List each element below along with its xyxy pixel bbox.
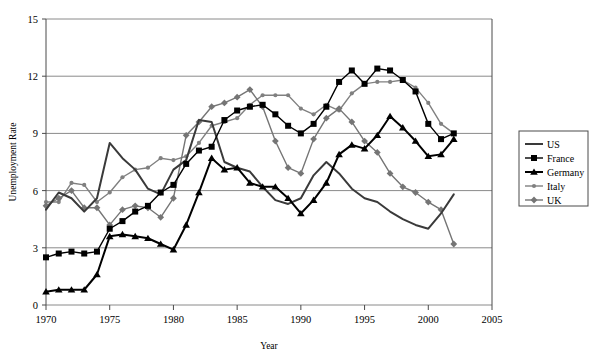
data-point-marker [197, 141, 201, 145]
data-point-marker [387, 67, 393, 73]
chart-legend: USFranceGermanyItalyUK [519, 131, 588, 206]
legend-label-italy: Italy [547, 181, 565, 192]
x-tick-label: 2005 [482, 314, 503, 325]
y-tick-label: 12 [28, 71, 39, 82]
data-point-marker [426, 101, 430, 105]
figure-background [0, 0, 592, 357]
chart-figure: 19701975198019851990199520002005 0369121… [0, 0, 592, 357]
data-point-marker [247, 104, 253, 110]
data-point-marker [261, 93, 265, 97]
data-point-marker [451, 130, 457, 136]
data-point-marker [413, 88, 419, 94]
data-point-marker [532, 184, 536, 188]
data-point-marker [145, 203, 151, 209]
data-point-marker [273, 93, 277, 97]
data-point-marker [221, 117, 227, 123]
data-point-marker [311, 121, 317, 127]
data-point-marker [43, 254, 49, 260]
legend-label-france: France [547, 153, 575, 164]
data-point-marker [362, 81, 368, 87]
data-point-marker [69, 181, 73, 185]
x-tick-label: 1985 [227, 314, 248, 325]
data-point-marker [350, 91, 354, 95]
data-point-marker [209, 144, 215, 150]
data-point-marker [196, 148, 202, 154]
data-point-marker [81, 251, 87, 257]
data-point-marker [68, 249, 74, 255]
unemployment-rate-line-chart: 19701975198019851990199520002005 0369121… [0, 0, 592, 357]
data-point-marker [439, 122, 443, 126]
data-point-marker [158, 190, 164, 196]
x-axis-title: Year [260, 341, 278, 351]
y-tick-label: 15 [28, 14, 39, 25]
data-point-marker [375, 80, 379, 84]
data-point-marker [438, 136, 444, 142]
y-tick-label: 3 [33, 243, 38, 254]
x-tick-label: 1970 [36, 314, 57, 325]
x-tick-label: 2000 [418, 314, 439, 325]
data-point-marker [159, 156, 163, 160]
data-point-marker [260, 102, 266, 108]
data-point-marker [119, 218, 125, 224]
data-point-marker [234, 108, 240, 114]
x-tick-label: 1995 [354, 314, 375, 325]
data-point-marker [183, 161, 189, 167]
x-tick-label: 1980 [163, 314, 184, 325]
data-point-marker [285, 123, 291, 129]
data-point-marker [235, 116, 239, 120]
data-point-marker [323, 104, 329, 110]
legend-label-uk: UK [547, 195, 562, 206]
data-point-marker [107, 226, 113, 232]
data-point-marker [108, 190, 112, 194]
data-point-marker [56, 251, 62, 257]
data-point-marker [336, 79, 342, 85]
data-point-marker [170, 182, 176, 188]
x-tick-label: 1990 [290, 314, 311, 325]
y-tick-label: 6 [33, 186, 38, 197]
data-point-marker [349, 67, 355, 73]
data-point-marker [312, 112, 316, 116]
legend-label-germany: Germany [547, 167, 584, 178]
y-tick-label: 0 [33, 300, 38, 311]
data-point-marker [388, 80, 392, 84]
legend-label-us: US [547, 139, 560, 150]
data-point-marker [298, 130, 304, 136]
x-tick-label: 1975 [99, 314, 120, 325]
data-point-marker [146, 166, 150, 170]
data-point-marker [171, 158, 175, 162]
data-point-marker [94, 249, 100, 255]
data-point-marker [132, 209, 138, 215]
data-point-marker [400, 77, 406, 83]
data-point-marker [272, 111, 278, 117]
data-point-marker [425, 121, 431, 127]
y-tick-label: 9 [33, 128, 38, 139]
data-point-marker [531, 155, 537, 161]
data-point-marker [299, 107, 303, 111]
data-point-marker [82, 183, 86, 187]
data-point-marker [120, 175, 124, 179]
y-axis-title: Unemployment Rate [8, 123, 18, 202]
data-point-marker [374, 66, 380, 72]
data-point-marker [286, 93, 290, 97]
